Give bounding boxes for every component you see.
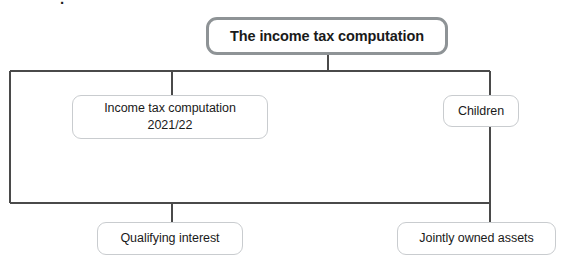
node-children[interactable]: Children (443, 95, 519, 127)
node-jointly-owned-assets-label: Jointly owned assets (419, 230, 533, 247)
node-qualifying-interest-label: Qualifying interest (120, 230, 219, 247)
node-income-tax-computation-label: Income tax computation 2021/22 (104, 100, 236, 134)
node-root[interactable]: The income tax computation (206, 17, 448, 55)
node-income-tax-computation[interactable]: Income tax computation 2021/22 (72, 95, 268, 139)
clipped-heading-fragment: . (60, 0, 64, 6)
node-root-label: The income tax computation (230, 28, 424, 44)
node-children-label: Children (458, 103, 504, 120)
node-qualifying-interest[interactable]: Qualifying interest (97, 222, 243, 255)
diagram-canvas: . The income tax computation (0, 0, 566, 263)
node-jointly-owned-assets[interactable]: Jointly owned assets (397, 222, 556, 255)
